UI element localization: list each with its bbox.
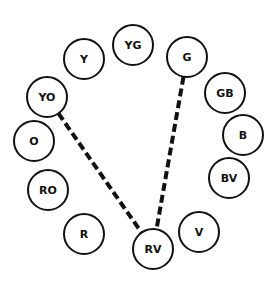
node-label: YG bbox=[124, 39, 142, 52]
node-label: GB bbox=[216, 87, 233, 100]
node-gb: GB bbox=[205, 73, 245, 113]
node-label: BV bbox=[221, 172, 238, 185]
node-g: G bbox=[167, 37, 207, 77]
node-bv: BV bbox=[209, 158, 249, 198]
nodes: YYGGGBBBVVRVRROOYO bbox=[14, 25, 263, 269]
node-v: V bbox=[179, 212, 219, 252]
node-b: B bbox=[223, 115, 263, 155]
node-o: O bbox=[14, 121, 54, 161]
node-label: RV bbox=[145, 243, 162, 256]
edges bbox=[58, 77, 183, 233]
edge-yo-rv bbox=[58, 113, 141, 232]
color-wheel-diagram: YYGGGBBBVVRVRROOYO bbox=[0, 0, 280, 283]
node-label: Y bbox=[79, 53, 89, 66]
node-rv: RV bbox=[133, 229, 173, 269]
node-ro: RO bbox=[28, 170, 68, 210]
node-r: R bbox=[64, 214, 104, 254]
edge-g-rv bbox=[156, 77, 183, 230]
node-label: RO bbox=[39, 184, 57, 197]
node-label: B bbox=[239, 129, 247, 142]
node-label: R bbox=[80, 228, 89, 241]
node-label: V bbox=[195, 226, 204, 239]
node-label: G bbox=[182, 51, 191, 64]
node-label: O bbox=[29, 135, 38, 148]
node-yg: YG bbox=[113, 25, 153, 65]
node-label: YO bbox=[38, 91, 56, 104]
node-yo: YO bbox=[27, 77, 67, 117]
node-y: Y bbox=[64, 39, 104, 79]
